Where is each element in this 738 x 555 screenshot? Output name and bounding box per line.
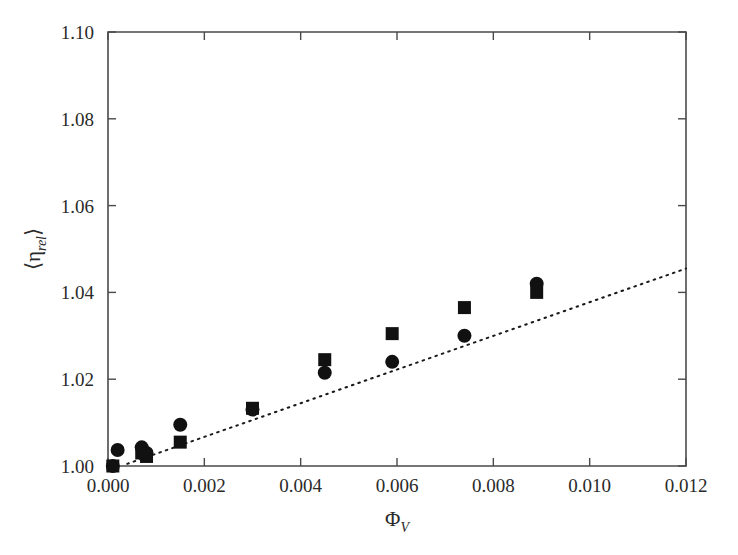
- plot-frame: [108, 32, 686, 466]
- trend-line: [127, 269, 686, 464]
- data-point-square: [140, 450, 153, 463]
- scatter-plot: 0.0000.0020.0040.0060.0080.0100.012 1.00…: [0, 0, 738, 555]
- data-point-circle: [318, 366, 332, 380]
- figure-container: 0.0000.0020.0040.0060.0080.0100.012 1.00…: [0, 0, 738, 555]
- axes-frame: [108, 32, 686, 466]
- x-tick-label: 0.000: [87, 475, 130, 496]
- data-point-circle: [111, 443, 125, 457]
- y-axis-label: ⟨ηrel⟩: [21, 228, 49, 270]
- data-point-circle: [173, 418, 187, 432]
- data-point-square: [174, 436, 187, 449]
- data-point-square: [530, 286, 543, 299]
- x-tick-label: 0.008: [472, 475, 515, 496]
- y-tick-label: 1.04: [61, 282, 95, 303]
- x-tick-label: 0.012: [665, 475, 708, 496]
- data-point-circle: [385, 355, 399, 369]
- data-point-square: [458, 301, 471, 314]
- data-point-square: [318, 353, 331, 366]
- x-tick-label: 0.004: [279, 475, 322, 496]
- x-tick-label: 0.002: [183, 475, 226, 496]
- x-axis-label: ΦV: [385, 507, 410, 535]
- y-axis-ticks: 1.001.021.041.061.081.10: [61, 22, 686, 477]
- data-point-square: [246, 402, 259, 415]
- data-point-square: [106, 460, 119, 473]
- y-tick-label: 1.00: [61, 456, 94, 477]
- x-tick-label: 0.010: [568, 475, 611, 496]
- y-tick-label: 1.06: [61, 196, 94, 217]
- x-tick-label: 0.006: [376, 475, 419, 496]
- data-series: [106, 277, 544, 473]
- y-tick-label: 1.02: [61, 369, 94, 390]
- fit-line: [127, 269, 686, 464]
- data-point-circle: [457, 329, 471, 343]
- data-point-square: [386, 327, 399, 340]
- y-tick-label: 1.08: [61, 109, 94, 130]
- y-tick-label: 1.10: [61, 22, 94, 43]
